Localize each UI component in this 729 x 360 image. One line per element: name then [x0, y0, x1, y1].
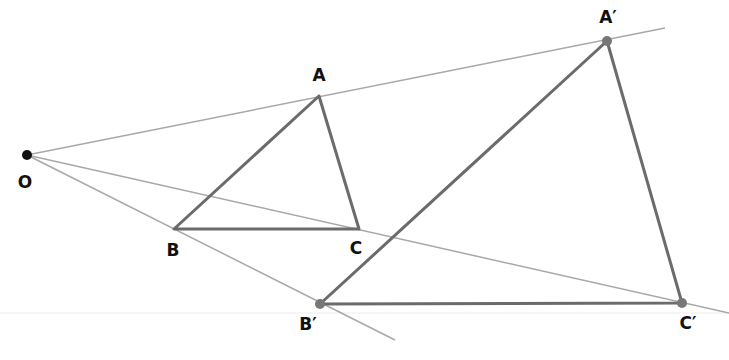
dilation-diagram: O A B C A′ B′ C′	[0, 0, 729, 360]
label-c-prime: C′	[680, 315, 697, 332]
ray-OB	[27, 155, 395, 340]
rays	[27, 28, 729, 340]
label-b: B	[167, 242, 180, 259]
ray-OC	[27, 155, 729, 313]
label-c: C	[350, 240, 362, 257]
point-c-prime	[677, 298, 687, 308]
label-b-prime: B′	[299, 316, 316, 333]
center-point-o	[22, 150, 32, 160]
triangle-a-prime-b-prime-c-prime	[320, 41, 682, 304]
diagram-canvas	[0, 0, 729, 360]
label-a-prime: A′	[599, 9, 617, 26]
ray-OA	[27, 28, 665, 155]
point-a-prime	[602, 36, 612, 46]
label-a: A	[312, 67, 325, 84]
point-b-prime	[315, 299, 325, 309]
label-o: O	[18, 174, 32, 191]
